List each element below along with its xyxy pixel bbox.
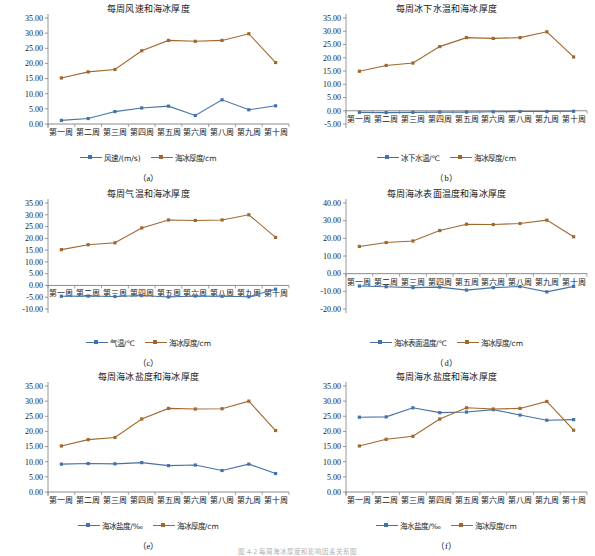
subfigure-label-b: （b）: [298, 171, 595, 183]
svg-text:第九周: 第九周: [237, 127, 261, 137]
subfigure-label-c: （c）: [0, 356, 297, 368]
svg-text:5.00: 5.00: [327, 473, 341, 482]
svg-text:5.00: 5.00: [327, 93, 341, 102]
legend-entry-2: 海冰厚度/cm: [450, 152, 516, 163]
subfigure-label-d: （d）: [298, 356, 595, 368]
svg-text:第二周: 第二周: [76, 495, 100, 505]
svg-text:第四周: 第四周: [428, 277, 452, 287]
plot-area-d: -20.00-10.000.0010.0020.0030.0040.00第一周第…: [298, 185, 595, 345]
plot-area-f: 0.005.0010.0015.0020.0025.0030.0035.00第一…: [298, 368, 595, 528]
svg-text:第一周: 第一周: [49, 495, 73, 505]
svg-text:0.00: 0.00: [327, 488, 341, 497]
legend-marker-icon: [450, 154, 472, 161]
legend-marker-icon: [86, 339, 108, 346]
chart-panel-f: 每周海水盐度和海冰厚度 0.005.0010.0015.0020.0025.00…: [298, 368, 595, 553]
legend-marker-icon: [80, 154, 102, 161]
chart-legend-a: 风速/(m/s)海冰厚度/cm: [0, 152, 297, 163]
svg-text:25.00: 25.00: [323, 40, 341, 49]
svg-text:10.00: 10.00: [323, 458, 341, 467]
chart-legend-e: 海冰盐度/‰海冰厚度/cm: [0, 520, 297, 531]
svg-text:15.00: 15.00: [323, 67, 341, 76]
legend-entry-1: 冰下水温/℃: [377, 152, 440, 163]
svg-text:20.00: 20.00: [25, 427, 43, 436]
svg-text:第六周: 第六周: [481, 114, 505, 124]
svg-text:20.00: 20.00: [25, 234, 43, 243]
svg-text:30.00: 30.00: [323, 216, 341, 225]
legend-label: 海冰厚度/cm: [175, 152, 217, 163]
svg-text:第一周: 第一周: [347, 114, 371, 124]
chart-panel-d: 每周海冰表面温度和海冰厚度 -20.00-10.000.0010.0020.00…: [298, 185, 595, 370]
svg-text:第九周: 第九周: [237, 495, 261, 505]
svg-text:5.00: 5.00: [29, 105, 43, 114]
svg-text:25.00: 25.00: [25, 222, 43, 231]
legend-entry-2: 海冰厚度/cm: [151, 152, 217, 163]
svg-text:30.00: 30.00: [323, 397, 341, 406]
svg-text:-10.00: -10.00: [320, 287, 341, 296]
svg-text:0.00: 0.00: [327, 107, 341, 116]
chart-panel-b: 每周冰下水温和海冰厚度 -5.000.005.0010.0015.0020.00…: [298, 0, 595, 185]
chart-panel-a: 每周风速和海冰厚度 0.005.0010.0015.0020.0025.0030…: [0, 0, 297, 185]
legend-marker-icon: [145, 339, 167, 346]
svg-text:第三周: 第三周: [401, 114, 425, 124]
chart-panel-e: 每周海冰盐度和海冰厚度 0.005.0010.0015.0020.0025.00…: [0, 368, 297, 553]
legend-entry-1: 海冰表面温度/℃: [370, 337, 447, 348]
svg-text:第六周: 第六周: [183, 495, 207, 505]
svg-text:第五周: 第五周: [455, 114, 479, 124]
svg-text:20.00: 20.00: [323, 234, 341, 243]
legend-marker-icon: [376, 522, 398, 529]
svg-text:10.00: 10.00: [323, 80, 341, 89]
svg-text:第十周: 第十周: [562, 114, 586, 124]
svg-text:第九周: 第九周: [535, 495, 559, 505]
svg-text:40.00: 40.00: [323, 199, 341, 208]
svg-text:-5.00: -5.00: [26, 293, 43, 302]
legend-entry-2: 海冰厚度/cm: [457, 337, 523, 348]
svg-text:10.00: 10.00: [323, 252, 341, 261]
svg-text:第二周: 第二周: [374, 114, 398, 124]
legend-entry-1: 气温/℃: [86, 337, 135, 348]
legend-label: 海冰厚度/cm: [481, 337, 523, 348]
legend-entry-2: 海冰厚度/cm: [153, 520, 219, 531]
svg-text:第五周: 第五周: [455, 277, 479, 287]
legend-entry-1: 风速/(m/s): [80, 152, 140, 163]
legend-marker-icon: [377, 154, 399, 161]
legend-label: 海冰盐度/‰: [102, 520, 143, 531]
svg-text:第五周: 第五周: [455, 495, 479, 505]
svg-text:第十周: 第十周: [264, 495, 288, 505]
svg-text:第四周: 第四周: [428, 114, 452, 124]
svg-text:第六周: 第六周: [481, 277, 505, 287]
chart-legend-c: 气温/℃海冰厚度/cm: [0, 337, 297, 348]
svg-text:第八周: 第八周: [210, 127, 234, 137]
svg-text:5.00: 5.00: [29, 473, 43, 482]
svg-text:-20.00: -20.00: [320, 305, 341, 314]
legend-label: 气温/℃: [110, 337, 135, 348]
legend-label: 海水盐度/‰: [400, 520, 441, 531]
svg-text:10.00: 10.00: [25, 258, 43, 267]
legend-marker-icon: [78, 522, 100, 529]
svg-text:25.00: 25.00: [25, 412, 43, 421]
svg-text:第九周: 第九周: [535, 114, 559, 124]
plot-area-b: -5.000.005.0010.0015.0020.0025.0030.0035…: [298, 0, 595, 160]
plot-area-e: 0.005.0010.0015.0020.0025.0030.0035.00第一…: [0, 368, 297, 528]
svg-text:第四周: 第四周: [130, 495, 154, 505]
legend-label: 海冰厚度/cm: [474, 152, 516, 163]
svg-text:30.00: 30.00: [25, 397, 43, 406]
svg-text:第一周: 第一周: [49, 127, 73, 137]
svg-text:15.00: 15.00: [25, 74, 43, 83]
svg-text:20.00: 20.00: [323, 54, 341, 63]
svg-text:35.00: 35.00: [323, 14, 341, 23]
svg-text:第八周: 第八周: [210, 495, 234, 505]
figure-caption: 图 4-2 每周海冰厚度和影响因素关系图: [0, 546, 595, 556]
svg-text:25.00: 25.00: [25, 44, 43, 53]
chart-legend-d: 海冰表面温度/℃海冰厚度/cm: [298, 337, 595, 348]
svg-text:0.00: 0.00: [327, 269, 341, 278]
legend-label: 风速/(m/s): [104, 152, 140, 163]
plot-area-a: 0.005.0010.0015.0020.0025.0030.0035.00第一…: [0, 0, 297, 160]
svg-text:第三周: 第三周: [401, 277, 425, 287]
svg-text:35.00: 35.00: [25, 382, 43, 391]
svg-text:10.00: 10.00: [25, 90, 43, 99]
svg-text:第五周: 第五周: [157, 495, 181, 505]
svg-text:第四周: 第四周: [428, 495, 452, 505]
svg-text:第二周: 第二周: [374, 495, 398, 505]
svg-text:第一周: 第一周: [347, 495, 371, 505]
